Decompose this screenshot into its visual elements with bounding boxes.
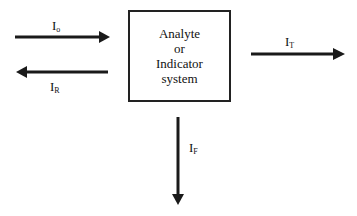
box-line-1: Analyte [159,26,200,41]
box-line-4: system [161,71,197,86]
reflected-label: IR [50,80,60,98]
light-interaction-diagram: Analyte or Indicator system Io IR IT IF [0,0,357,216]
box-line-3: Indicator [156,56,203,71]
incident-label: Io [52,19,60,37]
fluorescent-label: IF [189,141,198,159]
analyte-indicator-box: Analyte or Indicator system [128,10,231,102]
reflected-arrow [16,66,108,78]
box-line-2: or [174,41,185,56]
transmitted-label: IT [285,35,294,53]
incident-arrow [15,31,110,43]
transmitted-arrow [251,48,345,60]
fluorescent-arrow [172,117,184,205]
